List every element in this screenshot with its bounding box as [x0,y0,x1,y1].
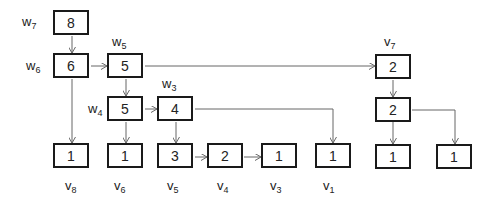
label-v4: v4 [217,178,229,195]
node-w3: 4 [157,96,193,121]
label-v3: v3 [270,178,282,195]
node-v7-child: 2 [375,97,411,122]
edge-w3-v1 [195,109,333,143]
node-v3: 1 [261,143,297,168]
edge-v7b-r2 [412,110,455,144]
label-w4: w4 [88,101,102,118]
label-w3: w3 [162,76,176,93]
label-w5: w5 [112,34,126,51]
label-v1: v1 [323,178,335,195]
label-v7: v7 [384,34,396,51]
label-v8: v8 [65,178,77,195]
node-w6: 6 [53,53,89,78]
node-v8: 1 [53,143,89,168]
node-v4: 2 [207,143,243,168]
node-v7: 2 [375,54,411,79]
label-w6: w6 [26,58,40,75]
node-v1: 1 [315,143,351,168]
node-w5: 5 [107,53,143,78]
node-right-leaf-2: 1 [436,144,472,169]
node-v6: 1 [107,143,143,168]
label-w7: w7 [22,14,36,31]
node-right-leaf-1: 1 [375,144,411,169]
node-w7: 8 [53,10,89,35]
label-v5: v5 [167,178,179,195]
node-v5: 3 [157,143,193,168]
node-w4: 5 [107,96,143,121]
label-v6: v6 [114,178,126,195]
